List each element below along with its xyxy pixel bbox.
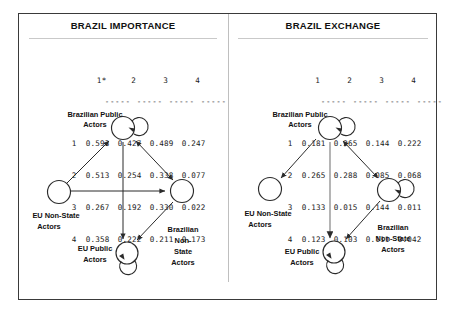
separator-dashes: ----- <box>353 97 379 106</box>
label-brazilian-non-state-line3: Actors <box>381 245 404 254</box>
matrix-right-col-headers: 1234 <box>259 65 430 76</box>
label-eu-public: EU Public <box>78 244 113 253</box>
separator-dashes: ----- <box>201 97 227 106</box>
col-header: 2 <box>334 76 366 87</box>
col-header: 4 <box>398 76 430 87</box>
edge-braziliannonstate-to-eupublic <box>137 202 173 240</box>
edge-brazilianpublic-braziliannonstate-bidirectional <box>343 141 378 178</box>
col-header: 3 <box>366 76 398 87</box>
panel-title-left: BRAZIL IMPORTANCE <box>19 18 227 34</box>
separator-dashes: ----- <box>385 97 411 106</box>
edge-brazilianpublic-to-eunonstate <box>281 139 316 178</box>
col-header: 3 <box>150 76 182 87</box>
label-eu-non-state-line2: Actors <box>37 222 60 231</box>
node-eu-non-state[interactable] <box>48 181 71 204</box>
separator-dashes: ----- <box>169 97 195 106</box>
separator-dashes: ----- <box>321 97 347 106</box>
label-brazilian-non-state-line2: Non- <box>175 236 192 245</box>
label-brazilian-non-state: Brazilian <box>168 225 199 234</box>
label-brazilian-non-state-line4: Actors <box>171 258 194 267</box>
label-eu-non-state-line2: Actors <box>248 220 271 229</box>
matrix-right-separator: -------------------- <box>278 86 310 97</box>
label-brazilian-public: Brazilian Public <box>67 110 122 119</box>
col-header: 1 <box>302 76 334 87</box>
label-brazilian-public-line2: Actors <box>288 120 311 129</box>
network-diagram-left: Brazilian Public Actors EU Non-State Act… <box>23 106 228 282</box>
label-eu-public: EU Public <box>285 247 320 256</box>
col-header: 1* <box>86 76 118 87</box>
separator-dashes: ----- <box>137 97 163 106</box>
edge-brazilianpublic-braziliannonstate-bidirectional <box>136 141 173 180</box>
label-eu-public-line2: Actors <box>83 255 106 264</box>
label-brazilian-non-state-line3: State <box>174 247 192 256</box>
col-header: 2 <box>118 76 150 87</box>
header-rule-left <box>29 38 217 39</box>
node-brazilian-non-state[interactable] <box>171 180 194 203</box>
label-brazilian-public: Brazilian Public <box>272 110 327 119</box>
network-diagram-right: Brazilian Public Actors EU Non-State Act… <box>230 106 436 282</box>
separator-dashes: ----- <box>105 97 131 106</box>
edge-eunonstate-to-brazilianpublic <box>67 141 109 183</box>
label-eu-public-line2: Actors <box>290 258 313 267</box>
matrix-left-col-headers: 1*234 <box>43 65 214 76</box>
label-brazilian-non-state: Brazilian <box>378 223 409 232</box>
label-eu-non-state: EU Non-State <box>32 211 79 220</box>
node-eu-non-state[interactable] <box>259 178 282 201</box>
separator-dashes: ----- <box>417 97 443 106</box>
label-eu-non-state: EU Non-State <box>244 209 291 218</box>
col-header: 4 <box>182 76 214 87</box>
panel-title-right: BRAZIL EXCHANGE <box>228 18 438 34</box>
label-brazilian-non-state-line2: Non-State <box>376 234 411 243</box>
matrix-left-separator: -------------------- <box>62 86 94 97</box>
label-brazilian-public-line2: Actors <box>83 120 106 129</box>
figure-frame: BRAZIL IMPORTANCE BRAZIL EXCHANGE 1*234 … <box>18 13 437 300</box>
header-rule-right <box>238 38 428 39</box>
